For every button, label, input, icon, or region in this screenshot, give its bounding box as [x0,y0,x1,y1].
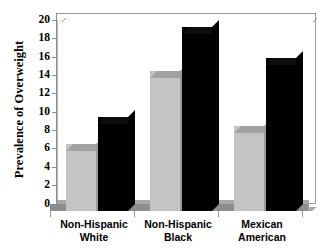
x-axis-tick-mark [218,211,219,217]
x-axis-tick-mark [50,211,51,217]
plot-corner-top-right [308,13,317,22]
y-axis-tick-label: 16 [24,51,50,63]
x-axis-category-labels: Non-HispanicWhiteNon-HispanicBlackMexica… [50,218,316,249]
y-axis-tick-mark [52,204,57,205]
plot-right-border [315,13,316,204]
category-label-line1: Mexican [220,218,304,231]
y-axis-tick-mark [52,185,57,186]
x-axis-tick-mark [134,211,135,217]
y-axis-tick-mark [52,148,57,149]
chart-floor-front [50,204,309,211]
y-axis-tick-mark [52,112,57,113]
y-axis-tick-label: 6 [24,143,50,155]
category-label-line2: Black [136,231,220,244]
plot-area [57,20,309,204]
x-axis-category-label: MexicanAmerican [220,218,304,244]
category-label-line1: Non-Hispanic [52,218,136,231]
x-axis-category-label: Non-HispanicBlack [136,218,220,244]
y-axis-tick-mark [52,38,57,39]
y-axis-tick-label: 2 [24,179,50,191]
category-label-line1: Non-Hispanic [136,218,220,231]
y-axis-tick-label: 12 [24,88,50,100]
y-axis-tick-label: 0 [24,198,50,210]
x-axis-category-label: Non-HispanicWhite [52,218,136,244]
plot-corner-top-left [57,13,66,22]
plot-top-riser [57,13,316,21]
x-axis-tick-mark [302,211,303,217]
y-axis-tick-label: 10 [24,106,50,118]
y-axis-tick-label: 4 [24,161,50,173]
y-axis-tick-label: 18 [24,33,50,45]
category-label-line2: White [52,231,136,244]
y-axis-tick-mark [52,167,57,168]
category-label-line2: American [220,231,304,244]
chart-floor-right-wedge [308,200,317,211]
y-axis-tick-mark [52,20,57,21]
y-axis-tick-label: 8 [24,124,50,136]
y-axis-tick-label: 20 [24,14,50,26]
chart-floor-left-wedge [50,200,58,211]
y-axis-tick-labels: 02468101214161820 [24,14,50,210]
y-axis-inner-spine [57,20,58,204]
y-axis-tick-mark [52,75,57,76]
bar-chart: Prevalence of Overweight 024681012141618… [0,0,323,249]
y-axis-tick-mark [52,57,57,58]
y-axis-tick-mark [52,130,57,131]
y-axis-tick-label: 14 [24,69,50,81]
y-axis-tick-mark [52,93,57,94]
